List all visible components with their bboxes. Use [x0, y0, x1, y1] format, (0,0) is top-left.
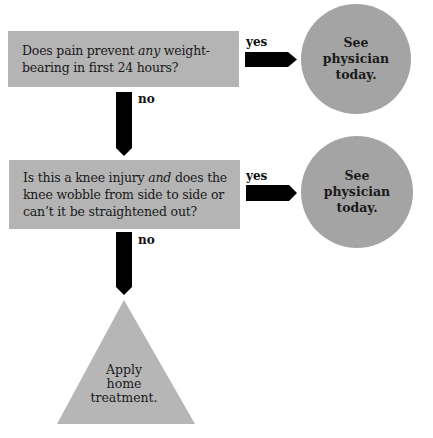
- result-line: treatment.: [64, 391, 184, 405]
- see-physician-circle: See physician today.: [301, 4, 411, 114]
- question-box-knee-injury: Is this a knee injury and does the knee …: [9, 160, 240, 229]
- question-text: Does pain prevent any weight-bearing in …: [22, 42, 233, 76]
- see-physician-circle: See physician today.: [301, 136, 413, 248]
- no-label: no: [138, 93, 155, 105]
- arrow-right-icon: [246, 185, 297, 201]
- arrow-right-icon: [245, 52, 297, 67]
- question-text: Is this a knee injury and does the knee …: [23, 169, 234, 220]
- arrow-down-icon: [116, 232, 132, 295]
- question-emphasis: any: [138, 43, 160, 58]
- question-text-part: Does pain prevent: [22, 43, 138, 58]
- result-line: Apply: [64, 363, 184, 377]
- result-line: physician: [324, 184, 390, 200]
- result-line: See: [323, 35, 389, 51]
- result-line: today.: [324, 200, 390, 216]
- result-line: physician: [323, 51, 389, 67]
- result-line: home: [64, 377, 184, 391]
- result-line: today.: [323, 67, 389, 83]
- arrow-down-icon: [116, 92, 132, 156]
- question-text-part: Is this a knee injury: [23, 170, 148, 185]
- yes-label: yes: [246, 36, 267, 48]
- question-emphasis: and: [148, 170, 171, 185]
- yes-label: yes: [246, 170, 267, 182]
- result-line: See: [324, 168, 390, 184]
- home-treatment-text: Apply home treatment.: [64, 363, 184, 405]
- question-box-weight-bearing: Does pain prevent any weight-bearing in …: [8, 31, 239, 87]
- no-label: no: [138, 234, 155, 246]
